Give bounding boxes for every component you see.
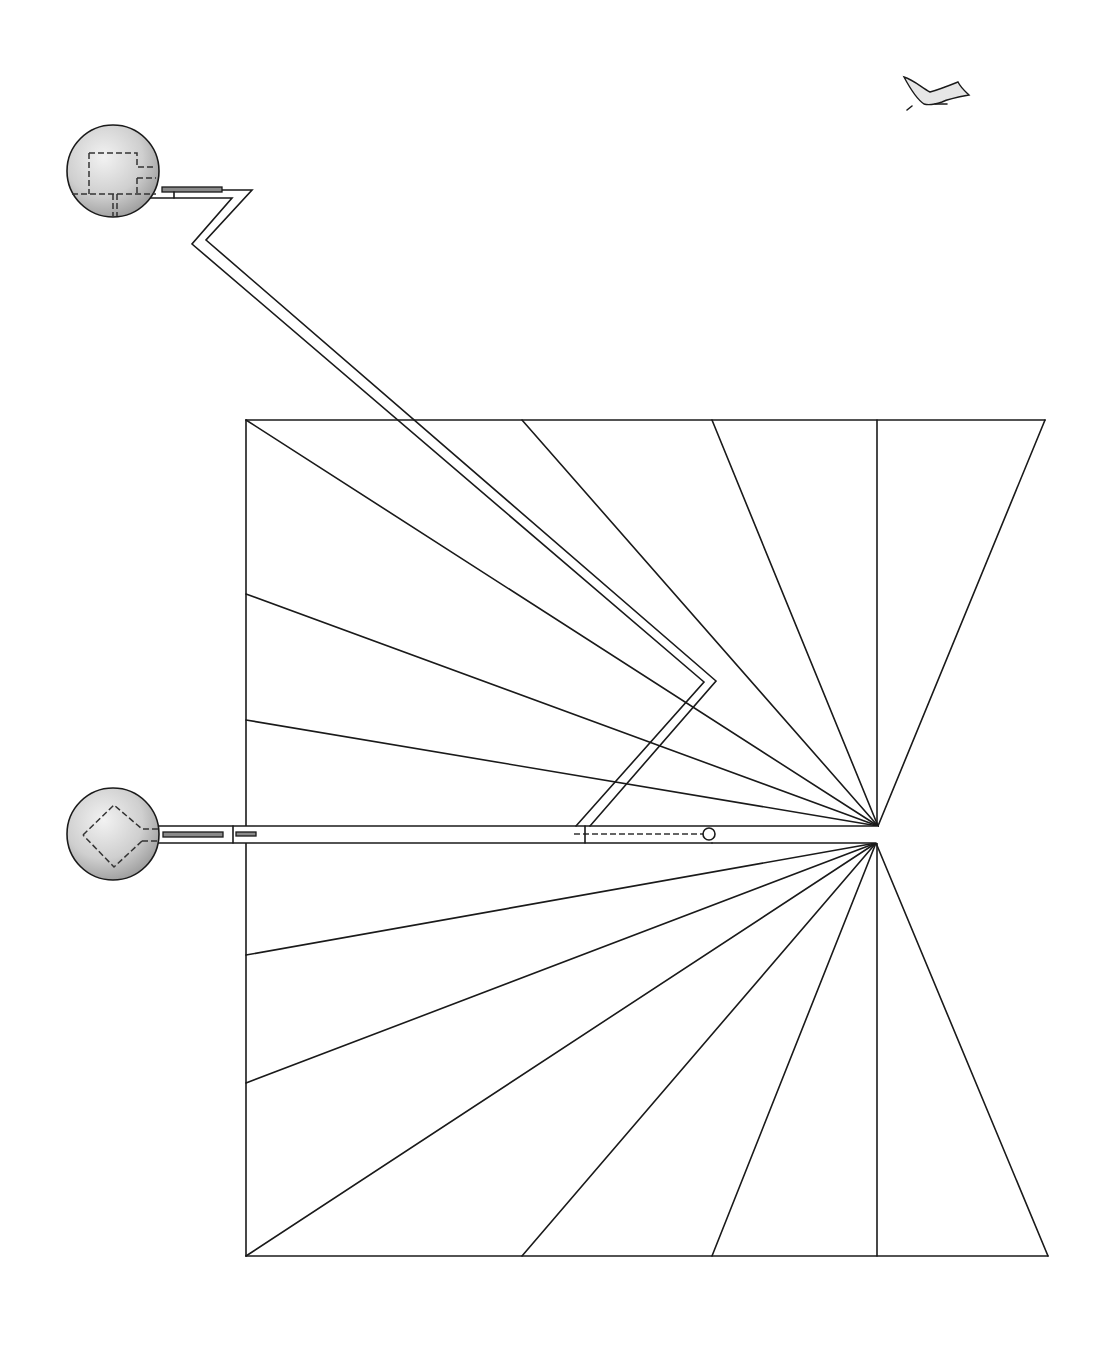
- horizontal-corridor: [152, 826, 878, 843]
- lower-sphere-pod: [67, 788, 160, 880]
- fan-rays-upper: [246, 420, 1045, 826]
- zigzag-corridor: [148, 187, 716, 826]
- bird-sketch-icon: [904, 77, 969, 110]
- plan-drawing: [0, 0, 1108, 1349]
- upper-sphere-pod: [67, 125, 159, 217]
- fan-rays-lower: [246, 843, 1048, 1256]
